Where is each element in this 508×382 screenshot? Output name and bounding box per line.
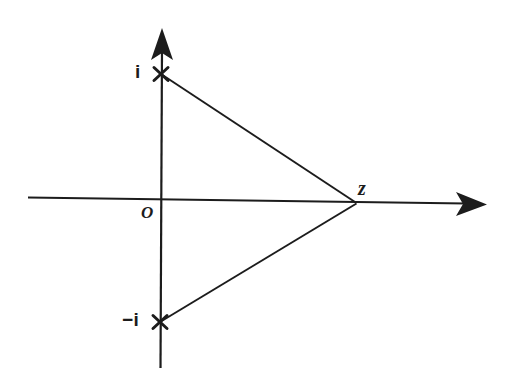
segment-minus-i-to-z bbox=[160, 204, 357, 323]
segment-i-to-z bbox=[161, 74, 357, 203]
real-axis bbox=[28, 192, 487, 216]
complex-plane-figure: i −i O z bbox=[0, 0, 508, 382]
diagram-canvas bbox=[0, 0, 508, 382]
label-imaginary-negative: −i bbox=[122, 310, 139, 329]
label-point-z: z bbox=[358, 178, 366, 198]
label-origin: O bbox=[141, 204, 153, 221]
real-axis-line bbox=[28, 198, 466, 204]
label-imaginary-positive: i bbox=[135, 62, 141, 81]
